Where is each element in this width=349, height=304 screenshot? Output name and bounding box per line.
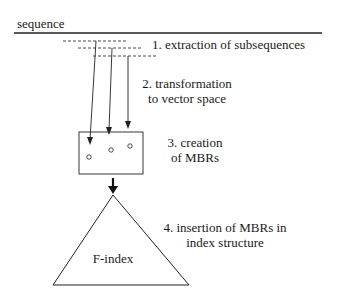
step-2-line2: to vector space (132, 91, 242, 106)
point-2 (109, 148, 113, 152)
point-3 (128, 144, 132, 148)
step-2-line1: 2. transformation (132, 76, 242, 91)
insert-arrow-head-icon (108, 186, 118, 194)
step-2-label: 2. transformation to vector space (132, 76, 242, 106)
point-1 (87, 155, 91, 159)
step-4-label: 4. insertion of MBRs in index structure (150, 220, 300, 250)
step-3-label: 3. creation of MBRs (155, 135, 235, 165)
arrow-3-head-icon (125, 121, 131, 129)
f-index-label: F-index (83, 251, 143, 266)
step-3-line2: of MBRs (155, 150, 235, 165)
arrow-2 (109, 48, 112, 130)
arrow-2-head-icon (106, 127, 112, 135)
step-4-line2: index structure (150, 235, 300, 250)
step-1-label: 1. extraction of subsequences (152, 37, 305, 52)
sequence-label: sequence (17, 16, 65, 31)
step-3-line1: 3. creation (155, 135, 235, 150)
step-4-line1: 4. insertion of MBRs in (150, 220, 300, 235)
arrow-1-head-icon (87, 137, 93, 145)
